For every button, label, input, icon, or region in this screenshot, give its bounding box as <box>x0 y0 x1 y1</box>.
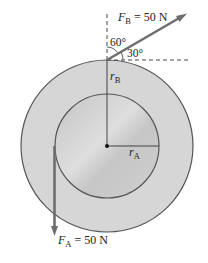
angle-30-arc <box>121 52 123 60</box>
angle-60-label: 60° <box>110 36 127 48</box>
angle-30-label: 30° <box>127 47 144 59</box>
center-point <box>105 144 109 148</box>
force-b-label: FB = 50 N <box>117 10 168 26</box>
force-a-label: FA = 50 N <box>57 233 108 249</box>
